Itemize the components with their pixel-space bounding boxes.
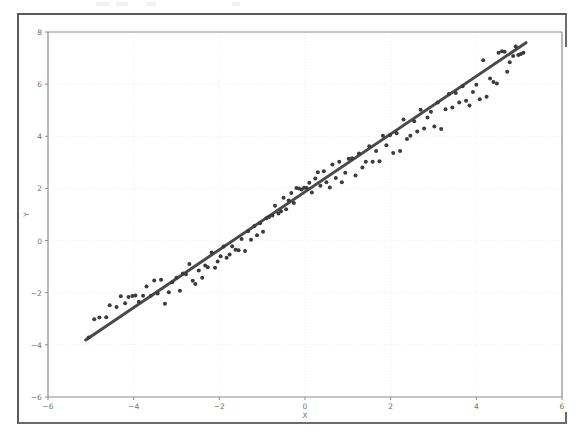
x-tick-label: 2 <box>388 402 393 411</box>
x-tick-label: 4 <box>474 402 479 411</box>
y-axis-title: Y <box>22 212 31 217</box>
y-tick-label: 4 <box>26 132 42 141</box>
x-tick-label: −4 <box>128 402 139 411</box>
y-tick-label: −2 <box>26 288 42 297</box>
y-tick-label: 0 <box>26 236 42 245</box>
y-tick-label: 8 <box>26 28 42 37</box>
scan-artifact <box>146 2 156 6</box>
x-axis-title: X <box>302 411 307 420</box>
y-tick-label: 6 <box>26 80 42 89</box>
y-tick-label: −4 <box>26 340 42 349</box>
x-tick-label: 6 <box>560 402 565 411</box>
plot-area <box>67 47 581 412</box>
y-tick-label: −6 <box>26 393 42 402</box>
scan-artifact <box>232 2 240 6</box>
figure-frame <box>17 13 567 424</box>
x-tick-label: −2 <box>214 402 225 411</box>
scan-artifact <box>96 2 110 6</box>
x-tick-label: −6 <box>42 402 53 411</box>
scan-artifacts <box>0 0 588 12</box>
x-tick-label: 0 <box>303 402 308 411</box>
scan-artifact <box>116 2 128 6</box>
y-tick-label: 2 <box>26 184 42 193</box>
